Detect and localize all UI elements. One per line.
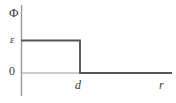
x-axis-label: r: [159, 79, 164, 91]
plot-canvas: [0, 0, 176, 103]
potential-step-curve: [21, 41, 172, 74]
y-tick-label-epsilon: ε: [10, 34, 14, 45]
potential-step-figure: Φ ε 0 d r: [0, 0, 176, 103]
y-axis-label: Φ: [9, 6, 19, 19]
x-tick-label-d: d: [75, 79, 81, 91]
y-tick-label-zero: 0: [9, 65, 15, 77]
